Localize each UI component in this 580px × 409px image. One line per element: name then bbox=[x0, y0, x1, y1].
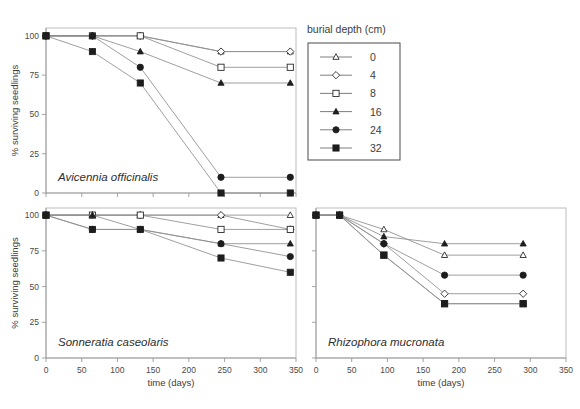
filled-circle-icon bbox=[137, 64, 143, 70]
x-tick-label-rhizophora-5: 250 bbox=[487, 365, 501, 375]
open-square-icon bbox=[333, 90, 339, 96]
series-line-0 bbox=[46, 36, 290, 52]
y-tick-label-sonneratia-3: 75 bbox=[30, 246, 40, 256]
legend-entry-24[interactable]: 24 bbox=[320, 124, 382, 136]
series-rhizophora-4 bbox=[312, 211, 526, 297]
filled-circle-icon bbox=[333, 127, 339, 133]
x-tick-label-sonneratia-7: 350 bbox=[289, 365, 303, 375]
legend-label-32: 32 bbox=[370, 142, 382, 154]
open-diamond-icon bbox=[332, 72, 339, 79]
panel-rhizophora: 050100150200250300350time (days)Rhizopho… bbox=[312, 208, 573, 388]
species-label-sonneratia: Sonneratia caseolaris bbox=[58, 336, 169, 348]
filled-triangle-icon bbox=[520, 240, 526, 246]
legend-entry-8[interactable]: 8 bbox=[320, 87, 376, 99]
series-line-24 bbox=[46, 36, 290, 177]
series-sonneratia-24 bbox=[43, 212, 294, 260]
filled-circle-icon bbox=[287, 174, 293, 180]
open-square-icon bbox=[218, 64, 224, 70]
filled-circle-icon bbox=[441, 272, 447, 278]
figure-root: 0255075100% surviving seedlingsAvicennia… bbox=[0, 0, 580, 409]
legend-entry-32[interactable]: 32 bbox=[320, 142, 382, 154]
x-tick-label-rhizophora-4: 200 bbox=[452, 365, 466, 375]
series-rhizophora-32 bbox=[313, 212, 526, 307]
series-line-16 bbox=[316, 215, 523, 244]
filled-circle-icon bbox=[287, 253, 293, 259]
filled-circle-icon bbox=[89, 33, 95, 39]
series-line-4 bbox=[46, 36, 290, 52]
legend-box bbox=[308, 43, 400, 160]
filled-square-icon bbox=[441, 301, 447, 307]
open-square-icon bbox=[287, 226, 293, 232]
y-tick-label-sonneratia-1: 25 bbox=[30, 317, 40, 327]
series-group-rhizophora bbox=[312, 211, 526, 306]
legend-label-0: 0 bbox=[370, 51, 376, 63]
filled-square-icon bbox=[137, 80, 143, 86]
y-tick-label-sonneratia-2: 50 bbox=[30, 282, 40, 292]
x-tick-label-sonneratia-6: 300 bbox=[253, 365, 267, 375]
series-sonneratia-16 bbox=[43, 212, 293, 246]
filled-square-icon bbox=[218, 190, 224, 196]
series-line-8 bbox=[316, 215, 523, 304]
legend-label-16: 16 bbox=[370, 106, 382, 118]
open-triangle-icon bbox=[520, 252, 526, 258]
filled-circle-icon bbox=[520, 272, 526, 278]
series-line-0 bbox=[316, 215, 523, 255]
x-tick-label-sonneratia-1: 50 bbox=[77, 365, 87, 375]
series-rhizophora-8 bbox=[313, 212, 526, 307]
x-tick-label-rhizophora-0: 0 bbox=[314, 365, 319, 375]
filled-triangle-icon bbox=[287, 80, 293, 86]
filled-square-icon bbox=[89, 226, 95, 232]
x-axis-title-rhizophora: time (days) bbox=[418, 377, 465, 388]
filled-circle-icon bbox=[218, 241, 224, 247]
x-tick-label-rhizophora-3: 150 bbox=[416, 365, 430, 375]
y-tick-label-sonneratia-0: 0 bbox=[34, 353, 39, 363]
filled-square-icon bbox=[287, 269, 293, 275]
y-tick-label-avicennia-0: 0 bbox=[34, 188, 39, 198]
x-tick-label-sonneratia-0: 0 bbox=[44, 365, 49, 375]
species-label-rhizophora: Rhizophora mucronata bbox=[328, 336, 444, 348]
open-square-icon bbox=[218, 226, 224, 232]
x-tick-label-sonneratia-4: 200 bbox=[182, 365, 196, 375]
filled-triangle-icon bbox=[381, 233, 387, 239]
x-tick-label-sonneratia-5: 250 bbox=[217, 365, 231, 375]
legend-label-4: 4 bbox=[370, 69, 376, 81]
y-tick-label-avicennia-3: 75 bbox=[30, 70, 40, 80]
series-sonneratia-0 bbox=[43, 212, 293, 218]
filled-square-icon bbox=[137, 226, 143, 232]
series-line-24 bbox=[316, 215, 523, 275]
legend: burial depth (cm)048162432 bbox=[307, 23, 400, 160]
filled-square-icon bbox=[333, 145, 339, 151]
series-line-32 bbox=[316, 215, 523, 304]
x-tick-label-sonneratia-2: 100 bbox=[110, 365, 124, 375]
y-axis-title-avicennia: % surviving seedlings bbox=[9, 65, 20, 157]
filled-square-icon bbox=[218, 255, 224, 261]
filled-square-icon bbox=[381, 252, 387, 258]
open-diamond-icon bbox=[519, 290, 526, 297]
y-tick-label-avicennia-2: 50 bbox=[30, 109, 40, 119]
series-rhizophora-24 bbox=[313, 212, 526, 278]
y-axis-title-sonneratia: % surviving seedlings bbox=[9, 237, 20, 329]
series-group-sonneratia bbox=[42, 211, 294, 275]
y-tick-label-avicennia-1: 25 bbox=[30, 149, 40, 159]
filled-square-icon bbox=[313, 212, 319, 218]
x-tick-label-rhizophora-2: 100 bbox=[380, 365, 394, 375]
survival-figure: 0255075100% surviving seedlingsAvicennia… bbox=[0, 0, 580, 409]
filled-triangle-icon bbox=[333, 108, 339, 114]
series-avicennia-16 bbox=[43, 33, 293, 86]
x-axis-title-sonneratia: time (days) bbox=[148, 377, 195, 388]
filled-circle-icon bbox=[381, 241, 387, 247]
filled-circle-icon bbox=[218, 174, 224, 180]
legend-entry-16[interactable]: 16 bbox=[320, 106, 382, 118]
open-triangle-icon bbox=[287, 212, 293, 218]
series-line-4 bbox=[316, 215, 523, 294]
y-tick-label-avicennia-4: 100 bbox=[25, 31, 39, 41]
x-tick-label-sonneratia-3: 150 bbox=[146, 365, 160, 375]
x-tick-label-rhizophora-1: 50 bbox=[347, 365, 357, 375]
open-square-icon bbox=[287, 64, 293, 70]
panel-avicennia: 0255075100% surviving seedlingsAvicennia… bbox=[9, 28, 296, 198]
open-triangle-icon bbox=[333, 54, 339, 60]
legend-entry-4[interactable]: 4 bbox=[320, 69, 376, 81]
open-square-icon bbox=[137, 212, 143, 218]
panel-frame-avicennia bbox=[46, 28, 296, 193]
legend-entry-0[interactable]: 0 bbox=[320, 51, 376, 63]
